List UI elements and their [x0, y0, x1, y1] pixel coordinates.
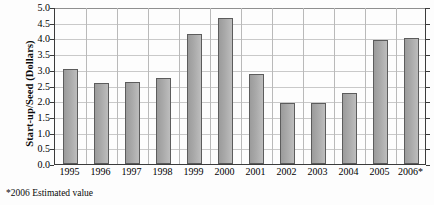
x-axis-tick-label: 2006*	[398, 167, 423, 177]
gridline	[55, 8, 425, 9]
x-axis-tick-label: 1999	[184, 167, 204, 177]
category-divider	[117, 8, 118, 164]
y-axis-tick-mark-right	[426, 8, 430, 9]
y-axis-tick-mark	[50, 55, 54, 56]
gridline	[55, 24, 425, 25]
category-divider	[241, 8, 242, 164]
bar-1995	[63, 69, 78, 164]
bar-1998	[156, 78, 171, 164]
x-axis-tick-label: 1997	[122, 167, 142, 177]
category-divider	[303, 8, 304, 164]
y-axis-tick-mark-right	[426, 39, 430, 40]
bar-2002	[280, 103, 295, 164]
y-axis-tick-mark-right	[426, 149, 430, 150]
category-divider	[148, 8, 149, 164]
y-axis-tick-labels: 0.00.51.01.52.02.53.03.54.04.55.0	[24, 8, 50, 165]
x-axis-tick-label: 1996	[91, 167, 111, 177]
y-axis-tick-label: 4.5	[38, 19, 51, 29]
category-divider	[179, 8, 180, 164]
y-axis-tick-mark	[50, 102, 54, 103]
y-axis-tick-mark	[50, 134, 54, 135]
bar-2004	[342, 93, 357, 164]
x-axis-tick-label: 1998	[153, 167, 173, 177]
bar-2005	[373, 40, 388, 164]
bar-1997	[125, 82, 140, 164]
gridline	[55, 149, 425, 150]
y-axis-tick-label: 1.0	[38, 129, 51, 139]
bar-2001	[249, 74, 264, 164]
y-axis-tick-mark-right	[426, 102, 430, 103]
x-axis-tick-label: 2004	[339, 167, 359, 177]
category-divider	[365, 8, 366, 164]
chart-figure: Start-up/Seed (Dollars) 0.00.51.01.52.02…	[0, 0, 434, 205]
category-divider	[210, 8, 211, 164]
plot-area	[54, 8, 426, 165]
x-axis-tick-label: 2001	[246, 167, 266, 177]
bar-1999	[187, 34, 202, 164]
y-axis-tick-mark-right	[426, 71, 430, 72]
category-divider	[396, 8, 397, 164]
y-axis-tick-label: 1.5	[38, 113, 51, 123]
y-axis-tick-mark	[50, 149, 54, 150]
gridline	[55, 39, 425, 40]
x-axis-tick-label: 2003	[308, 167, 328, 177]
bar-2006	[404, 38, 419, 164]
y-axis-tick-mark	[50, 87, 54, 88]
x-axis-tick-labels: 1995199619971998199920002001200220032004…	[54, 167, 426, 183]
gridline	[55, 102, 425, 103]
y-axis-tick-label: 0.0	[38, 160, 51, 170]
y-axis-tick-mark-right	[426, 134, 430, 135]
gridline	[55, 118, 425, 119]
y-axis-tick-label: 2.0	[38, 97, 51, 107]
bar-2003	[311, 103, 326, 164]
y-axis-tick-mark-right	[426, 24, 430, 25]
category-divider	[86, 8, 87, 164]
bar-2000	[218, 18, 233, 164]
chart-footnote: *2006 Estimated value	[6, 188, 93, 198]
y-axis-tick-label: 2.5	[38, 82, 51, 92]
gridline	[55, 71, 425, 72]
gridline	[55, 87, 425, 88]
y-axis-tick-label: 3.5	[38, 50, 51, 60]
y-axis-tick-mark-right	[426, 55, 430, 56]
y-axis-tick-mark	[50, 24, 54, 25]
x-axis-tick-label: 1995	[60, 167, 80, 177]
x-axis-tick-label: 2000	[215, 167, 235, 177]
x-axis-tick-label: 2005	[370, 167, 390, 177]
gridline	[55, 55, 425, 56]
y-axis-tick-mark-right	[426, 87, 430, 88]
y-axis-tick-label: 4.0	[38, 34, 51, 44]
y-axis-tick-mark-right	[426, 165, 430, 166]
category-divider	[272, 8, 273, 164]
gridline	[55, 134, 425, 135]
bar-1996	[94, 83, 109, 164]
y-axis-tick-mark	[50, 118, 54, 119]
y-axis-tick-label: 3.0	[38, 66, 51, 76]
category-divider	[334, 8, 335, 164]
y-axis-tick-label: 5.0	[38, 3, 51, 13]
y-axis-tick-label: 0.5	[38, 144, 51, 154]
y-axis-tick-mark	[50, 71, 54, 72]
y-axis-tick-mark	[50, 39, 54, 40]
y-axis-tick-mark	[50, 165, 54, 166]
x-axis-tick-label: 2002	[277, 167, 297, 177]
y-axis-tick-mark-right	[426, 118, 430, 119]
y-axis-tick-mark	[50, 8, 54, 9]
